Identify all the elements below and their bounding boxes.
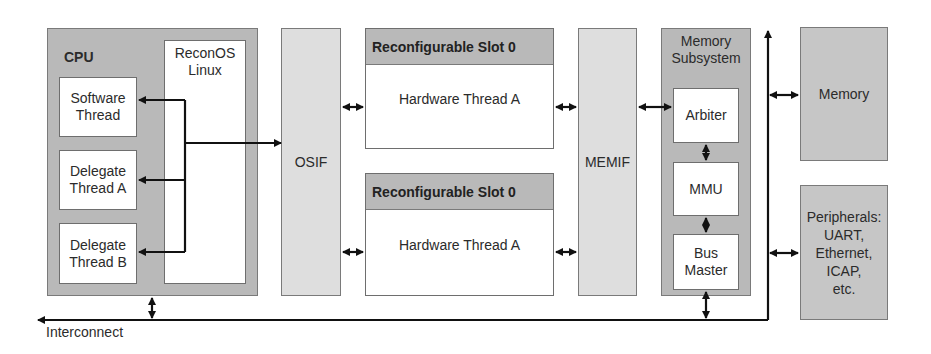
connection-arrows bbox=[0, 0, 931, 354]
